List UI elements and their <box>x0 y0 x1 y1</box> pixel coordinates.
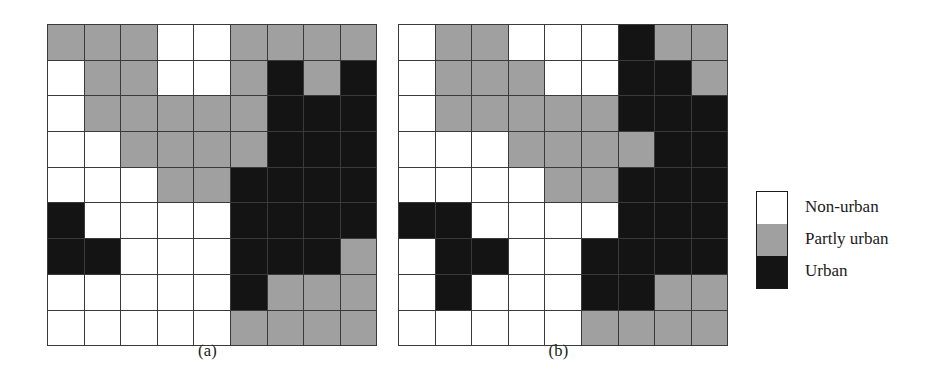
grid-cell <box>194 61 230 96</box>
grid-cell <box>692 275 728 310</box>
grid-cell <box>231 275 267 310</box>
grid-cell <box>399 168 435 203</box>
grid-cell <box>231 132 267 167</box>
grid-cell <box>655 25 691 60</box>
grid-cell <box>158 168 194 203</box>
grid-cell <box>85 239 121 274</box>
grid-cell <box>692 96 728 131</box>
grid-cell <box>436 239 472 274</box>
grid-cell <box>399 61 435 96</box>
grid-cell <box>304 168 340 203</box>
grid-cell <box>194 311 230 346</box>
grid-cell <box>121 96 157 131</box>
heatmap-grid-a <box>47 24 377 346</box>
grid-cell <box>268 96 304 131</box>
grid-cell <box>121 25 157 60</box>
grid-cell <box>85 203 121 238</box>
grid-cell <box>545 239 581 274</box>
grid-cell <box>692 239 728 274</box>
grid-panel-b <box>398 24 728 346</box>
legend-label-nonurban: Non-urban <box>805 191 889 223</box>
grid-cell <box>619 275 655 310</box>
grid-cell <box>472 132 508 167</box>
grid-cell <box>545 311 581 346</box>
grid-cell <box>472 203 508 238</box>
grid-cell <box>268 61 304 96</box>
grid-cell <box>304 275 340 310</box>
grid-cell <box>268 311 304 346</box>
grid-cell <box>341 311 377 346</box>
grid-cell <box>48 203 84 238</box>
grid-cell <box>158 25 194 60</box>
grid-cell <box>436 61 472 96</box>
grid-cell <box>692 25 728 60</box>
grid-cell <box>582 239 618 274</box>
grid-cell <box>85 132 121 167</box>
legend-swatch-nonurban <box>757 192 787 224</box>
grid-cell <box>194 168 230 203</box>
grid-cell <box>436 311 472 346</box>
grid-cell <box>399 203 435 238</box>
grid-cell <box>231 168 267 203</box>
grid-cell <box>472 168 508 203</box>
grid-cell <box>582 168 618 203</box>
grid-cell <box>619 311 655 346</box>
grid-cell <box>48 132 84 167</box>
grid-cell <box>194 275 230 310</box>
grid-cell <box>509 275 545 310</box>
figure-root: (a) (b) Non-urbanPartly urbanUrban <box>0 0 946 385</box>
grid-cell <box>619 203 655 238</box>
panel-caption-a: (a) <box>47 341 368 361</box>
grid-cell <box>48 61 84 96</box>
grid-cell <box>85 275 121 310</box>
grid-cell <box>158 239 194 274</box>
grid-cell <box>582 311 618 346</box>
grid-cell <box>231 203 267 238</box>
grid-cell <box>582 61 618 96</box>
grid-cell <box>472 25 508 60</box>
grid-cell <box>436 25 472 60</box>
grid-cell <box>231 61 267 96</box>
grid-cell <box>341 203 377 238</box>
grid-cell <box>268 203 304 238</box>
grid-cell <box>158 61 194 96</box>
legend-label-column: Non-urbanPartly urbanUrban <box>805 191 889 287</box>
grid-cell <box>655 203 691 238</box>
grid-cell <box>509 96 545 131</box>
grid-cell <box>399 25 435 60</box>
grid-cell <box>399 132 435 167</box>
grid-cell <box>48 275 84 310</box>
grid-cell <box>341 61 377 96</box>
grid-cell <box>692 311 728 346</box>
grid-cell <box>472 311 508 346</box>
grid-cell <box>85 61 121 96</box>
grid-cell <box>341 96 377 131</box>
grid-cell <box>48 239 84 274</box>
grid-cell <box>304 132 340 167</box>
grid-cell <box>436 132 472 167</box>
grid-cell <box>619 239 655 274</box>
grid-cell <box>545 168 581 203</box>
grid-cell <box>655 168 691 203</box>
grid-cell <box>158 311 194 346</box>
grid-cell <box>268 25 304 60</box>
grid-cell <box>48 168 84 203</box>
grid-cell <box>655 239 691 274</box>
grid-cell <box>655 275 691 310</box>
grid-cell <box>509 61 545 96</box>
grid-cell <box>472 61 508 96</box>
grid-cell <box>194 203 230 238</box>
grid-cell <box>619 96 655 131</box>
grid-cell <box>436 275 472 310</box>
grid-cell <box>158 96 194 131</box>
grid-cell <box>399 96 435 131</box>
grid-cell <box>472 275 508 310</box>
grid-cell <box>121 203 157 238</box>
grid-cell <box>121 168 157 203</box>
grid-cell <box>341 168 377 203</box>
grid-cell <box>619 168 655 203</box>
legend-label-partly: Partly urban <box>805 223 889 255</box>
grid-cell <box>582 25 618 60</box>
grid-cell <box>509 168 545 203</box>
grid-cell <box>545 61 581 96</box>
